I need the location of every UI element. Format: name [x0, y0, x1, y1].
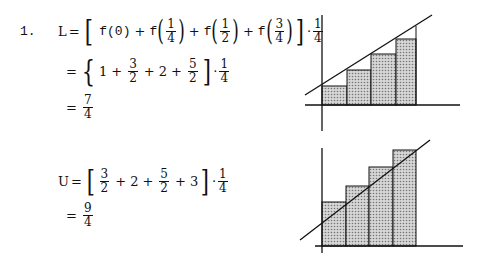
upper-sum-graph — [300, 140, 463, 253]
riemann-sum-figures — [0, 0, 485, 268]
lower-sum-graph — [305, 15, 460, 131]
